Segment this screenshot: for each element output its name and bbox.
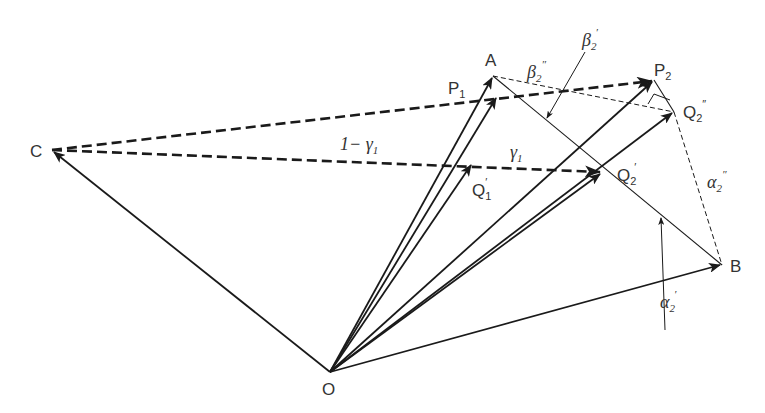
right-angle-marker	[648, 94, 670, 104]
label-c: C	[30, 142, 42, 161]
label-beta2p: β2′	[581, 26, 598, 52]
vector-o-q2pp	[330, 113, 672, 372]
label-p2: P2	[654, 61, 671, 82]
label-gamma1: γ1	[510, 142, 523, 164]
label-q2pp: Q2″	[683, 98, 706, 124]
beta2p-pointer	[547, 52, 585, 118]
vector-o-q2p	[330, 174, 600, 372]
label-one-minus-gamma1: 1− γ1	[340, 134, 378, 156]
label-beta2pp: β2″	[526, 58, 546, 84]
label-p1: P1	[448, 79, 465, 100]
label-b: B	[730, 257, 741, 276]
vector-o-c	[54, 152, 330, 372]
label-q2p: Q2′	[617, 161, 636, 187]
label-q1p: Q1′	[472, 176, 491, 202]
line-p2-q2pp	[654, 80, 674, 112]
label-alpha2pp: α2″	[707, 168, 727, 194]
label-a: A	[485, 51, 497, 70]
vector-o-q1p	[330, 165, 471, 372]
alpha2p-pointer	[661, 218, 665, 330]
dashed-line-a-q2pp	[493, 76, 674, 112]
label-o: O	[322, 380, 335, 399]
vector-o-a	[330, 78, 492, 372]
label-alpha2p: α2′	[660, 288, 677, 314]
vector-diagram: C O A B P1 P2 Q1′ Q2′ Q2″ 1− γ1 γ1 β2′ β…	[0, 0, 765, 413]
